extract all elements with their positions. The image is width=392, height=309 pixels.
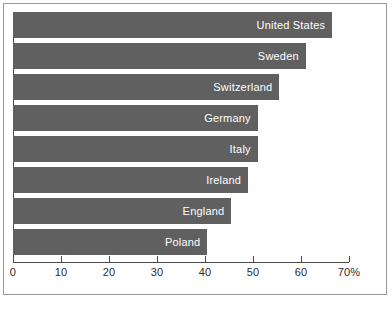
x-axis-tick-label: 70%: [338, 266, 361, 278]
bar-category-label: England: [183, 205, 225, 217]
x-axis-tick: [301, 256, 302, 262]
bar-category-label: Switzerland: [213, 81, 272, 93]
bar: Switzerland: [13, 74, 279, 100]
bar: Ireland: [13, 167, 248, 193]
x-axis-tick-label: 40: [199, 266, 212, 278]
x-axis-tick: [13, 256, 14, 262]
x-axis-tick: [157, 256, 158, 262]
bar: Germany: [13, 105, 258, 131]
bar-chart-plot-area: 010203040506070% United StatesSwedenSwit…: [0, 0, 392, 309]
x-axis-tick-label: 10: [55, 266, 68, 278]
x-axis-tick: [61, 256, 62, 262]
x-axis-tick: [205, 256, 206, 262]
x-axis-tick: [253, 256, 254, 262]
x-axis-tick: [349, 256, 350, 262]
chart-screenshot: 010203040506070% United StatesSwedenSwit…: [0, 0, 392, 309]
bar: United States: [13, 12, 332, 38]
bar: Poland: [13, 229, 207, 255]
bar-category-label: Ireland: [206, 174, 241, 186]
x-axis-tick: [109, 256, 110, 262]
x-axis-tick-label: 50: [247, 266, 260, 278]
bar-category-label: United States: [257, 19, 326, 31]
bar: England: [13, 198, 231, 224]
x-axis-tick-label: 30: [151, 266, 164, 278]
bar: Italy: [13, 136, 258, 162]
bar-category-label: Sweden: [258, 50, 299, 62]
x-axis-line: [13, 262, 349, 263]
bar-category-label: Poland: [165, 236, 200, 248]
x-axis-tick-label: 0: [10, 266, 16, 278]
bar: Sweden: [13, 43, 306, 69]
bar-category-label: Italy: [230, 143, 251, 155]
bar-category-label: Germany: [204, 112, 251, 124]
x-axis-tick-label: 20: [103, 266, 116, 278]
x-axis-tick-label: 60: [295, 266, 308, 278]
